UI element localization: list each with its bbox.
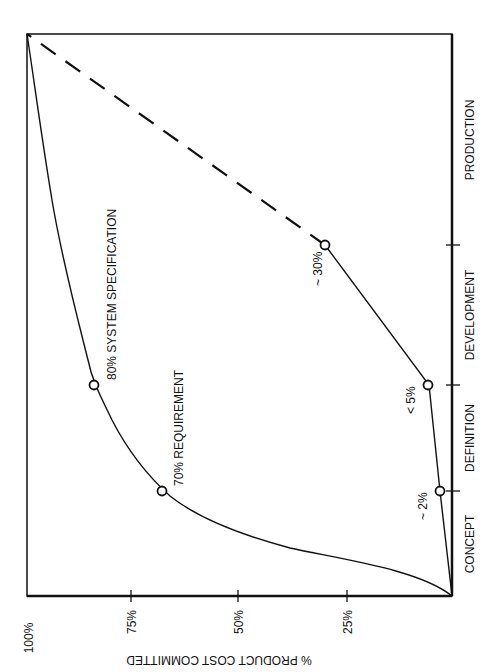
marker-system-spec (90, 381, 99, 390)
annotation-requirement: 70% REQUIREMENT (172, 369, 186, 486)
plot-frame (27, 34, 452, 596)
cost-incurred-line (325, 245, 452, 596)
cost-committed-curve (27, 34, 452, 596)
annotation-5pct: < 5% (404, 386, 418, 414)
annotation-system-spec: 80% SYSTEM SPECIFICATION (105, 209, 119, 380)
y-tick-50: 50% (232, 610, 246, 634)
y-tick-75: 75% (125, 610, 139, 634)
cost-incurred-projection (27, 34, 325, 245)
phase-development: DEVELOPMENT (463, 269, 477, 360)
y-axis-title: % PRODUCT COST COMMITTED (126, 653, 312, 667)
annotation-2pct: ~ 2% (416, 492, 430, 520)
annotation-30pct: ~ 30% (311, 251, 325, 286)
marker-5pct (424, 381, 433, 390)
y-tick-25: 25% (341, 610, 355, 634)
marker-30pct (321, 241, 330, 250)
phase-concept: CONCEPT (463, 514, 477, 573)
y-tick-100: 100% (22, 622, 36, 653)
phase-definition: DEFINITION (463, 404, 477, 472)
phase-production: PRODUCTION (463, 100, 477, 181)
marker-2pct (436, 487, 445, 496)
marker-requirement (158, 487, 167, 496)
cost-committed-chart: 100% 75% 50% 25% % PRODUCT COST COMMITTE… (0, 0, 502, 672)
markers (90, 241, 445, 496)
